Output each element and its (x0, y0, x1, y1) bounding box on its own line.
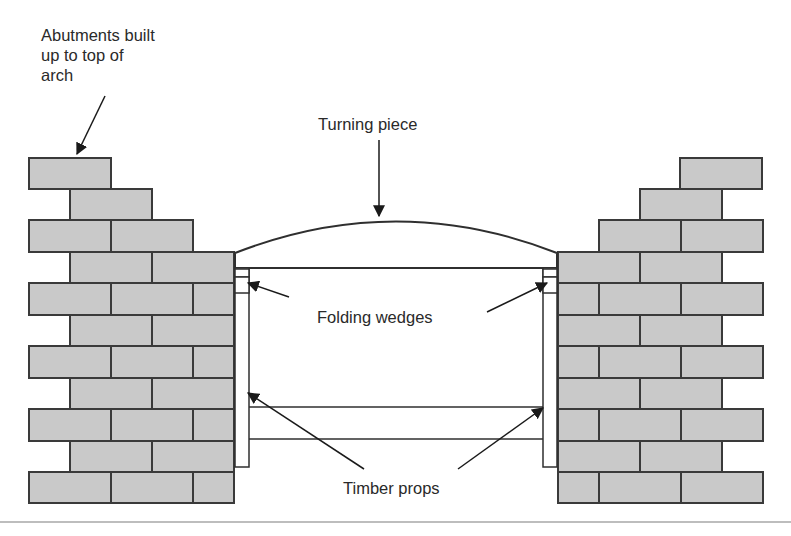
timber-prop-arrow-left (248, 393, 364, 469)
folding-wedge-right-lower (543, 277, 557, 293)
timber-prop-left (235, 268, 249, 467)
folding-wedge-arrow-left (248, 283, 289, 297)
turning-piece (235, 222, 557, 269)
label-abutments: Abutments built up to top of arch (41, 25, 155, 85)
timber-prop-right (543, 268, 557, 467)
abutment-arrow (77, 96, 105, 154)
label-turning-piece: Turning piece (318, 114, 417, 134)
right-abutment (558, 158, 763, 503)
label-timber-props: Timber props (343, 478, 440, 498)
folding-wedge-arrow-right (487, 283, 547, 312)
folding-wedge-right-upper (543, 269, 557, 277)
left-abutment (29, 158, 234, 503)
folding-wedge-left-lower (235, 277, 249, 293)
arch-centering-diagram: Abutments built up to top of arch Turnin… (0, 0, 791, 536)
folding-wedge-left-upper (235, 269, 249, 277)
label-folding-wedges: Folding wedges (317, 307, 433, 327)
bottom-divider (0, 521, 791, 523)
